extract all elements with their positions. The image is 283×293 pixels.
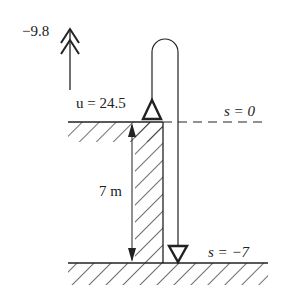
height-dimension-arrow-icon bbox=[128, 123, 136, 262]
height-label: 7 m bbox=[99, 183, 122, 199]
landing-triangle-icon bbox=[169, 246, 187, 262]
bottom-level-label: s = −7 bbox=[208, 244, 251, 260]
top-level-label: s = 0 bbox=[224, 103, 255, 119]
initial-velocity-label: u = 24.5 bbox=[76, 95, 126, 111]
acceleration-arrow-icon bbox=[61, 29, 79, 90]
launch-triangle-icon bbox=[143, 100, 161, 119]
ground bbox=[68, 263, 268, 285]
projectile-diagram: −9.8 s = 0 s = −7 7 m u = 24.5 bbox=[0, 0, 283, 293]
acceleration-label: −9.8 bbox=[22, 23, 49, 39]
